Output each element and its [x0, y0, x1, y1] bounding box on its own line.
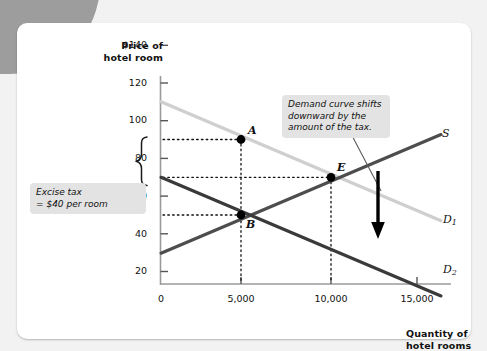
x-axis-title-line2: hotel rooms	[406, 340, 487, 351]
point-b-dot	[237, 211, 246, 220]
plot-area: Price of hotel room $140 120 100 80 60 4…	[17, 23, 471, 339]
x-tick-label-10000: 10,000	[306, 293, 356, 304]
figure-root: Price of hotel room $140 120 100 80 60 4…	[0, 0, 487, 351]
excise-tax-callout-line1: Excise tax	[36, 187, 140, 199]
y-tick-label-80: 80	[95, 152, 147, 163]
demand-curve-1-label: D1	[443, 213, 457, 227]
guide-lines	[163, 140, 331, 283]
x-axis-ticks	[241, 277, 417, 284]
supply-curve-label: S	[442, 127, 450, 140]
point-a-label: A	[248, 124, 257, 137]
x-tick-label-0: 0	[136, 293, 186, 304]
point-b-label: B	[246, 218, 255, 231]
excise-tax-callout-line2: = $40 per room	[36, 199, 140, 211]
y-tick-label-100: 100	[95, 114, 147, 125]
point-e-dot	[327, 173, 336, 182]
demand-curve-2-label: D2	[443, 263, 457, 277]
x-axis-title: Quantity of hotel rooms	[406, 328, 487, 351]
y-tick-label-40: 40	[95, 228, 147, 239]
x-tick-label-5000: 5,000	[216, 293, 266, 304]
demand-curve-1-subscript: 1	[452, 218, 457, 227]
demand-curve-2-letter: D	[443, 263, 452, 276]
y-tick-label-140: $140	[95, 39, 147, 50]
x-axis-title-line1: Quantity of	[406, 328, 487, 340]
point-e-label: E	[337, 161, 345, 174]
y-tick-label-20: 20	[95, 265, 147, 276]
point-a-dot	[237, 135, 246, 144]
demand-curve-1-letter: D	[443, 213, 452, 226]
demand-shift-callout: Demand curve shifts downward by the amou…	[282, 95, 390, 138]
demand-curve-2-subscript: 2	[452, 268, 457, 277]
y-tick-label-120: 120	[95, 77, 147, 88]
x-tick-label-15000: 15,000	[392, 293, 442, 304]
chart-canvas	[17, 23, 471, 339]
y-axis-title-line2: hotel room	[101, 52, 163, 64]
excise-tax-callout: Excise tax = $40 per room	[30, 183, 146, 214]
shift-down-arrow	[371, 171, 385, 239]
figure-card: Price of hotel room $140 120 100 80 60 4…	[17, 23, 471, 339]
